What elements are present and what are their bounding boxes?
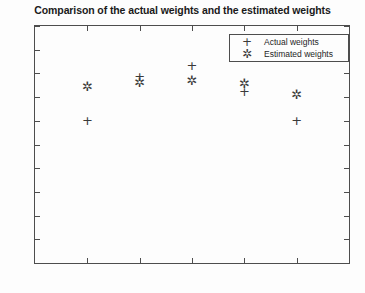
data-point-marker: + (134, 71, 145, 82)
x-axis-tick-top (244, 26, 245, 31)
x-axis-tick (140, 258, 141, 263)
data-point-marker: + (239, 86, 250, 97)
x-axis-tick (192, 258, 193, 263)
y-axis-tick (35, 97, 40, 98)
y-axis-tick (35, 50, 40, 51)
data-point-marker: ✲ (134, 77, 145, 88)
data-point-marker: ✲ (291, 89, 302, 100)
y-axis-tick-right (344, 239, 349, 240)
y-axis-tick-right (344, 121, 349, 122)
y-axis-tick (35, 168, 40, 169)
x-axis-tick-top (297, 26, 298, 31)
y-axis-tick (35, 192, 40, 193)
y-axis-tick (35, 216, 40, 217)
y-axis-tick (35, 121, 40, 122)
y-axis-tick-right (344, 192, 349, 193)
data-point-marker: ✲ (239, 78, 250, 89)
x-axis-tick (244, 258, 245, 263)
y-axis-tick (35, 73, 40, 74)
x-axis-tick-top (87, 26, 88, 31)
y-axis-tick (35, 239, 40, 240)
x-axis-tick-top (192, 26, 193, 31)
y-axis-tick (35, 26, 40, 27)
x-axis-tick-top (140, 26, 141, 31)
y-axis-tick-right (344, 145, 349, 146)
page-title: Comparison of the actual weights and the… (0, 4, 365, 16)
data-point-marker: ✲ (82, 81, 93, 92)
plot-frame: +++++✲✲✲✲✲ +Actual weights✲Estimated wei… (34, 25, 350, 264)
chart-container: Comparison of the actual weights and the… (0, 0, 365, 293)
asterisk-marker-icon: ✲ (230, 48, 264, 61)
y-axis-tick-right (344, 73, 349, 74)
y-axis-tick-right (344, 26, 349, 27)
x-axis-tick (297, 258, 298, 263)
legend-item: ✲Estimated weights (230, 48, 348, 61)
data-point-marker: + (187, 60, 198, 71)
data-point-marker: + (82, 115, 93, 126)
y-axis-tick-right (344, 97, 349, 98)
y-axis-tick (35, 263, 40, 264)
x-axis-tick (87, 258, 88, 263)
y-axis-tick-right (344, 263, 349, 264)
data-point-marker: + (291, 115, 302, 126)
y-axis-tick-right (344, 216, 349, 217)
legend-item-label: Estimated weights (264, 48, 333, 61)
chart-legend: +Actual weights✲Estimated weights (229, 34, 349, 62)
data-point-marker: ✲ (187, 75, 198, 86)
y-axis-tick (35, 145, 40, 146)
y-axis-tick-right (344, 168, 349, 169)
